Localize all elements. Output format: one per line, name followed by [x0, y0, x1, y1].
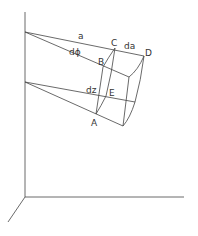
- arc-c-b: [103, 48, 115, 67]
- label-E: E: [109, 88, 115, 98]
- label-C: C: [111, 38, 117, 48]
- label-a: a: [78, 31, 84, 41]
- label-da: da: [124, 41, 135, 51]
- label-dz: dz: [86, 85, 97, 95]
- label-D: D: [145, 48, 152, 58]
- label-B: B: [98, 57, 104, 67]
- label-A: A: [91, 118, 98, 128]
- label-dphi: dϕ: [69, 47, 81, 57]
- edge-d-mid: [135, 56, 144, 102]
- x-axis: [8, 197, 25, 222]
- arc-d-corner: [129, 56, 144, 77]
- edge-b-a: [96, 67, 103, 114]
- diagram: a dϕ C da D B dz E A: [0, 0, 198, 236]
- radius-lower-e-line: [25, 82, 135, 102]
